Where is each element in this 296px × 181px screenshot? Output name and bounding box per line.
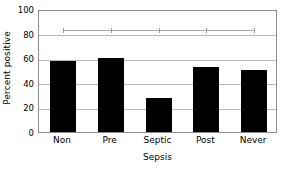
x-axis-tick-label: Non bbox=[53, 136, 71, 145]
x-axis-tick-label: Post bbox=[196, 136, 215, 145]
reference-line-tick bbox=[63, 28, 64, 33]
y-axis-tick-label: 0 bbox=[29, 129, 34, 138]
y-axis-tick-mark bbox=[38, 84, 39, 85]
x-axis-tick-label: Pre bbox=[103, 136, 117, 145]
x-axis-tick-labels: NonPreSepticPostNever bbox=[38, 136, 277, 150]
y-axis-tick-label: 60 bbox=[23, 55, 34, 64]
y-axis-tick-label: 100 bbox=[18, 6, 34, 15]
gridline bbox=[39, 35, 276, 36]
y-axis-tick-mark bbox=[38, 11, 39, 12]
bar bbox=[50, 61, 76, 132]
y-axis-title-text: Percent positive bbox=[2, 31, 12, 105]
y-axis-tick-mark bbox=[38, 60, 39, 61]
y-axis-tick-mark bbox=[38, 109, 39, 110]
bar bbox=[146, 98, 172, 132]
bar-chart-figure: Percent positive 020406080100 NonPreSept… bbox=[0, 0, 296, 181]
y-axis-tick-label: 40 bbox=[23, 80, 34, 89]
y-axis-tick-labels: 020406080100 bbox=[12, 0, 36, 145]
y-axis-tick-label: 80 bbox=[23, 30, 34, 39]
x-axis-tick-label: Never bbox=[240, 136, 267, 145]
x-axis-tick-label: Septic bbox=[144, 136, 172, 145]
reference-line-tick bbox=[254, 28, 255, 33]
y-axis-tick-mark bbox=[38, 35, 39, 36]
y-axis-tick-label: 20 bbox=[23, 104, 34, 113]
reference-line-tick bbox=[159, 28, 160, 33]
reference-line-tick bbox=[206, 28, 207, 33]
bar bbox=[98, 58, 124, 132]
x-axis-title: Sepsis bbox=[38, 152, 277, 162]
reference-line-tick bbox=[111, 28, 112, 33]
bar bbox=[241, 70, 267, 132]
bar bbox=[193, 67, 219, 132]
plot-area bbox=[38, 10, 277, 133]
